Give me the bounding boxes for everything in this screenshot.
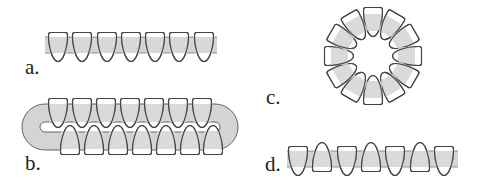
panel-d: d.	[265, 143, 458, 177]
panel-b: b.	[22, 99, 238, 176]
panel-label-a: a.	[25, 55, 40, 79]
panel-label-d: d.	[265, 152, 281, 176]
ring-of-teeth	[325, 8, 422, 105]
panel-c: c.	[266, 8, 422, 110]
teeth-row-alternating	[289, 143, 454, 176]
tooth-arrangement-diagram: a. b.	[0, 0, 479, 189]
panel-a: a.	[25, 33, 217, 80]
panel-label-c: c.	[266, 85, 281, 109]
panel-label-b: b.	[25, 151, 41, 175]
